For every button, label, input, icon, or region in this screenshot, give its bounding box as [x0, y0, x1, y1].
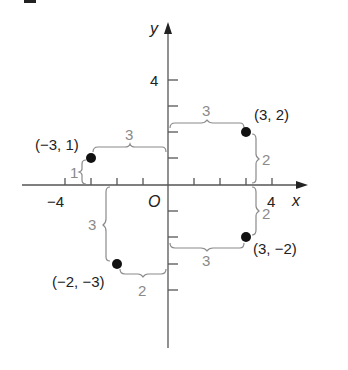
point-3-2	[241, 127, 251, 137]
y-axis-label: y	[149, 20, 159, 37]
point-neg3-1	[86, 153, 96, 163]
brace-p4-horizontal	[120, 269, 166, 277]
point-3-neg2	[241, 232, 251, 242]
origin-label: O	[148, 193, 160, 210]
brace-p2-vertical	[252, 134, 259, 183]
brace-p1-horizontal	[93, 144, 166, 152]
distance-p4-vertical: 3	[88, 216, 96, 233]
brace-p3-horizontal	[170, 243, 244, 251]
point-label-neg2-neg3: (−2, −3)	[52, 273, 105, 290]
distance-p2-horizontal: 3	[202, 102, 210, 119]
distance-p3-vertical: 2	[262, 205, 270, 222]
distance-p4-horizontal: 2	[138, 282, 146, 299]
brace-p1-vertical	[79, 160, 86, 184]
brace-p2-horizontal	[170, 120, 244, 128]
y-axis-arrow-icon	[164, 22, 172, 34]
distance-p1-horizontal: 3	[125, 126, 133, 143]
x-axis-label: x	[291, 192, 301, 209]
point-label-3-2: (3, 2)	[254, 106, 289, 123]
point-label-3-neg2: (3, −2)	[253, 240, 297, 257]
brace-p4-vertical	[103, 187, 110, 261]
x-tick-label-neg4: −4	[47, 193, 64, 210]
x-axis-arrow-icon	[296, 181, 308, 189]
distance-p1-vertical: 1	[70, 164, 78, 181]
point-neg2-neg3	[112, 259, 122, 269]
coordinate-plane: y x O −4 4 4 3 1 3 2 2 3 3 2 (−3, 1) (3,…	[0, 0, 348, 370]
brace-p3-vertical	[252, 187, 259, 235]
distance-p2-vertical: 2	[262, 151, 270, 168]
y-tick-label-4: 4	[150, 72, 158, 89]
distance-p3-horizontal: 3	[202, 252, 210, 269]
point-label-neg3-1: (−3, 1)	[35, 136, 79, 153]
